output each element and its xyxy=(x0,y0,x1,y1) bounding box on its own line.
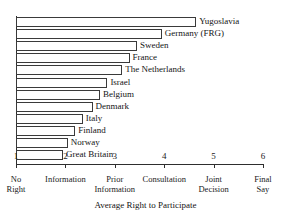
bar-label: Yugoslavia xyxy=(199,16,239,27)
x-category-label: FinalSay xyxy=(254,174,271,194)
bar xyxy=(16,102,93,112)
x-category-label-line2: Decision xyxy=(198,184,228,194)
x-category-label-line1: Final xyxy=(254,174,271,184)
x-category-label-line2: Information xyxy=(94,184,135,194)
plot-area: YugoslaviaGermany (FRG)SwedenFranceThe N… xyxy=(0,0,291,218)
x-tick xyxy=(214,164,215,168)
x-tick-number: 4 xyxy=(162,152,167,161)
x-category-label-line1: Information xyxy=(45,174,86,184)
bar-label: The Netherlands xyxy=(125,64,185,75)
bar-label: Israel xyxy=(110,77,130,88)
bar-label: Sweden xyxy=(140,40,169,51)
x-tick xyxy=(115,164,116,168)
bar-label: Great Britain xyxy=(66,149,113,160)
x-category-label-line2: Right xyxy=(7,184,26,194)
bar-row: Sweden xyxy=(16,41,263,51)
x-category-label-line1: No xyxy=(11,174,21,184)
bar-row: Germany (FRG) xyxy=(16,29,263,39)
bar-label: Finland xyxy=(78,125,106,136)
bar-label: Norway xyxy=(71,137,100,148)
x-tick xyxy=(65,164,66,168)
x-category-label-line1: Consultation xyxy=(142,174,185,184)
x-tick-number: 6 xyxy=(261,152,266,161)
x-tick xyxy=(263,164,264,168)
x-tick-number: 3 xyxy=(113,152,118,161)
x-category-label: Consultation xyxy=(142,174,185,184)
bar-row: Yugoslavia xyxy=(16,17,263,27)
bar-label: Germany (FRG) xyxy=(165,28,224,39)
bar xyxy=(16,138,68,148)
x-category-label-line1: Prior xyxy=(106,174,123,184)
bar-row: France xyxy=(16,53,263,63)
bar-row: Great Britain xyxy=(16,150,263,160)
bar-row: Finland xyxy=(16,126,263,136)
bar-row: Norway xyxy=(16,138,263,148)
x-category-label: Information xyxy=(45,174,86,184)
x-tick-number: 5 xyxy=(211,152,216,161)
bar xyxy=(16,114,83,124)
bar xyxy=(16,17,196,27)
x-category-label-line2: Say xyxy=(254,184,271,194)
x-tick-number: 2 xyxy=(63,152,68,161)
x-category-label: NoRight xyxy=(7,174,26,194)
bar-row: Italy xyxy=(16,114,263,124)
bar xyxy=(16,90,100,100)
bar xyxy=(16,78,107,88)
x-category-label-line1: Joint xyxy=(205,174,222,184)
bar-chart-figure: YugoslaviaGermany (FRG)SwedenFranceThe N… xyxy=(0,0,291,218)
bar xyxy=(16,126,75,136)
bar xyxy=(16,29,162,39)
bar-label: Italy xyxy=(86,113,103,124)
bar-row: Israel xyxy=(16,78,263,88)
bar xyxy=(16,150,63,160)
x-axis-line xyxy=(16,164,263,165)
bar-label: France xyxy=(133,52,158,63)
x-category-label: PriorInformation xyxy=(94,174,135,194)
bar-label: Belgium xyxy=(103,89,134,100)
bar-row: Denmark xyxy=(16,102,263,112)
x-category-label: JointDecision xyxy=(198,174,228,194)
bar xyxy=(16,41,137,51)
x-tick-number: 1 xyxy=(14,152,19,161)
bar-row: The Netherlands xyxy=(16,65,263,75)
bar xyxy=(16,53,130,63)
bar-label: Denmark xyxy=(96,101,130,112)
bar-row: Belgium xyxy=(16,90,263,100)
x-axis-title: Average Right to Participate xyxy=(0,200,291,210)
bar xyxy=(16,65,122,75)
x-tick xyxy=(164,164,165,168)
x-tick xyxy=(16,164,17,168)
